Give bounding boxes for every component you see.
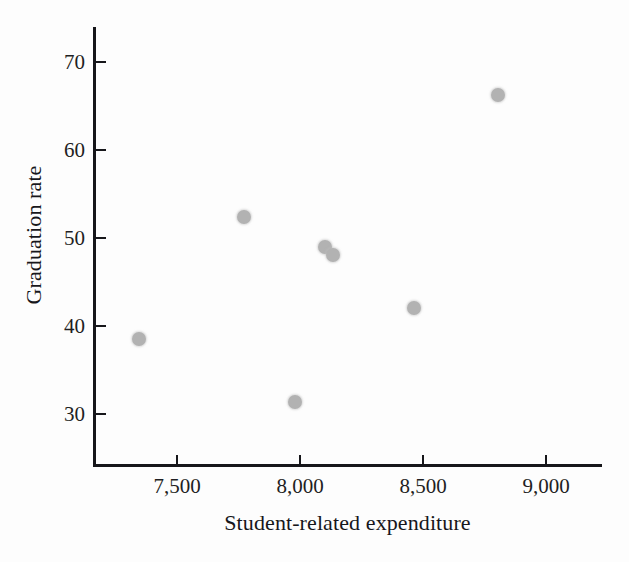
x-tick-label: 8,500 (399, 476, 446, 497)
y-tick-label: 30 (64, 404, 85, 425)
y-tick-label: 60 (64, 140, 85, 161)
y-tick-mark (96, 237, 106, 239)
x-tick-label: 8,000 (276, 476, 323, 497)
data-point (491, 88, 505, 102)
data-point (318, 240, 332, 254)
y-tick-label: 40 (64, 316, 85, 337)
scatter-plot-figure: 3040506070 Student-related expenditure G… (0, 0, 629, 562)
y-tick-mark (96, 149, 106, 151)
y-axis-line (93, 27, 96, 467)
x-tick-mark (422, 455, 424, 465)
data-point (237, 210, 251, 224)
data-point (288, 395, 302, 409)
x-tick-label: 9,000 (522, 476, 569, 497)
y-axis-title: Graduation rate (21, 135, 47, 335)
data-point (132, 332, 146, 346)
x-tick-mark (545, 455, 547, 465)
y-tick-mark (96, 61, 106, 63)
x-axis-line (93, 464, 602, 467)
x-tick-mark (299, 455, 301, 465)
data-point (326, 248, 340, 262)
y-tick-mark (96, 325, 106, 327)
x-axis-title: Student-related expenditure (93, 510, 602, 536)
data-point (407, 301, 421, 315)
y-tick-label: 50 (64, 228, 85, 249)
x-tick-mark (176, 455, 178, 465)
x-tick-label: 7,500 (153, 476, 200, 497)
y-tick-mark (96, 413, 106, 415)
y-tick-label: 70 (64, 52, 85, 73)
